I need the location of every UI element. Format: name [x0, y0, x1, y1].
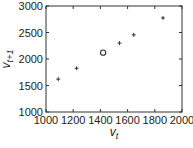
y-tick-label: 3000: [19, 0, 43, 12]
plus-marker: [56, 77, 60, 81]
plus-marker: [161, 16, 165, 20]
x-tick-label: 1600: [115, 114, 139, 126]
data-points: [56, 16, 165, 81]
y-tick-label: 2500: [19, 27, 43, 39]
scatter-chart: 100012001400160018002000 100015002000250…: [0, 0, 193, 148]
y-tick-label: 2000: [19, 53, 43, 65]
y-axis-ticks: 10001500200025003000: [19, 0, 182, 118]
x-tick-label: 1200: [61, 114, 85, 126]
x-tick-label: 2000: [170, 114, 193, 126]
y-axis-label: vt+1: [0, 50, 15, 69]
x-axis-label: vt: [110, 125, 119, 141]
y-tick-label: 1500: [19, 80, 43, 92]
axes-box: [46, 6, 182, 112]
plus-marker: [117, 41, 121, 45]
plot-frame: [46, 6, 182, 112]
plus-marker: [75, 66, 79, 70]
plus-marker: [132, 33, 136, 37]
x-axis-ticks: 100012001400160018002000: [34, 6, 193, 126]
x-tick-label: 1800: [143, 114, 167, 126]
circle-marker: [101, 50, 106, 55]
y-tick-label: 1000: [19, 106, 43, 118]
